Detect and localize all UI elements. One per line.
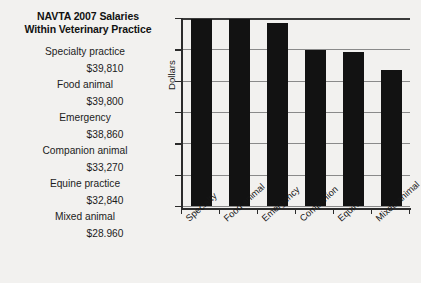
x-axis-tick	[219, 208, 220, 214]
chart-title-line-1: NAVTA 2007 Salaries	[8, 10, 168, 23]
y-axis-tick	[175, 112, 182, 113]
gridline	[182, 206, 410, 207]
legend-item-value: $32,840	[8, 193, 168, 210]
legend-item: Equine practice $32,840	[8, 176, 168, 209]
legend-item-label: Specialty practice	[8, 44, 168, 61]
legend-item: Companion animal $33,270	[8, 143, 168, 176]
legend-item: Mixed animal $28.960	[8, 209, 168, 242]
bar	[229, 19, 250, 206]
legend-item: Specialty practice $39,810	[8, 44, 168, 77]
x-axis-tick	[333, 208, 334, 214]
legend-item-label: Emergency	[8, 110, 168, 127]
legend-list: Specialty practice $39,810 Food animal $…	[8, 44, 168, 242]
y-axis-spine	[181, 18, 183, 210]
legend-panel: NAVTA 2007 Salaries Within Veterinary Pr…	[8, 10, 168, 242]
bar	[381, 70, 402, 206]
chart-title: NAVTA 2007 Salaries Within Veterinary Pr…	[8, 10, 168, 35]
legend-item-value: $39,800	[8, 94, 168, 111]
legend-item-label: Mixed animal	[8, 209, 168, 226]
bar	[267, 23, 288, 206]
x-axis-tick	[371, 208, 372, 214]
legend-item: Food animal $39,800	[8, 77, 168, 110]
legend-item: Emergency $38,860	[8, 110, 168, 143]
plot-area	[182, 18, 410, 206]
legend-item-value: $39,810	[8, 61, 168, 78]
bar	[343, 52, 364, 206]
bar	[191, 19, 212, 206]
y-axis-label: Dollars	[166, 60, 177, 90]
chart-area: Dollars SpecialtyFood animalEmergencyCom…	[170, 14, 410, 272]
chart-title-line-2: Within Veterinary Practice	[8, 23, 168, 36]
y-axis-tick	[175, 175, 182, 176]
x-axis-tick	[409, 208, 410, 214]
legend-item-value: $33,270	[8, 160, 168, 177]
legend-item-value: $28.960	[8, 226, 168, 243]
x-axis-tick	[257, 208, 258, 214]
x-axis-tick	[181, 208, 182, 214]
y-axis-tick	[175, 18, 182, 19]
legend-item-label: Equine practice	[8, 176, 168, 193]
legend-item-label: Companion animal	[8, 143, 168, 160]
legend-item-value: $38,860	[8, 127, 168, 144]
y-axis-tick	[175, 49, 182, 50]
y-axis-tick	[175, 81, 182, 82]
x-axis-tick	[295, 208, 296, 214]
bars-group	[182, 18, 410, 206]
y-axis-tick	[175, 143, 182, 144]
bar	[305, 50, 326, 206]
legend-item-label: Food animal	[8, 77, 168, 94]
